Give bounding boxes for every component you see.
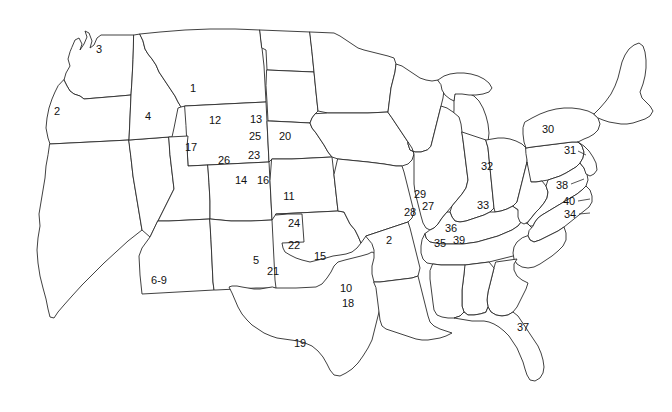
map-label-layer: 1234121325201723261416112422155216-91018… — [0, 0, 672, 412]
map-label-24: 24 — [288, 218, 300, 229]
map-label-37: 37 — [517, 322, 529, 333]
map-label-13: 13 — [250, 114, 262, 125]
map-label-30: 30 — [542, 124, 554, 135]
map-label-28: 28 — [404, 207, 416, 218]
map-label-19: 19 — [294, 338, 306, 349]
map-label-17: 17 — [185, 142, 197, 153]
map-label-5: 5 — [253, 255, 259, 266]
map-label-10: 10 — [340, 283, 352, 294]
map-label-2: 2 — [54, 106, 60, 117]
map-label-39: 39 — [453, 235, 465, 246]
map-label-16: 16 — [257, 175, 269, 186]
map-label-36: 36 — [445, 223, 457, 234]
map-label-11: 11 — [283, 191, 294, 202]
map-label-33: 33 — [477, 200, 489, 211]
map-label-2: 2 — [386, 235, 392, 246]
us-state-map-figure: 1234121325201723261416112422155216-91018… — [0, 0, 672, 412]
map-label-1: 1 — [190, 83, 196, 94]
map-label-4: 4 — [145, 111, 151, 122]
map-label-15: 15 — [314, 251, 326, 262]
map-label-20: 20 — [279, 131, 291, 142]
map-label-18: 18 — [342, 298, 354, 309]
map-label-32: 32 — [481, 161, 493, 172]
map-label-21: 21 — [267, 266, 279, 277]
map-label-6-9: 6-9 — [151, 275, 167, 286]
map-label-12: 12 — [209, 115, 221, 126]
map-label-31: 31 — [564, 145, 576, 156]
map-label-38: 38 — [556, 180, 568, 191]
map-label-40: 40 — [563, 196, 575, 207]
map-label-3: 3 — [96, 44, 102, 55]
map-label-25: 25 — [249, 131, 261, 142]
map-label-23: 23 — [248, 150, 260, 161]
map-label-14: 14 — [235, 175, 247, 186]
map-label-26: 26 — [218, 155, 230, 166]
map-label-34: 34 — [564, 209, 576, 220]
map-label-22: 22 — [288, 240, 300, 251]
map-label-27: 27 — [422, 201, 434, 212]
map-label-29: 29 — [414, 189, 426, 200]
map-label-35: 35 — [434, 238, 446, 249]
